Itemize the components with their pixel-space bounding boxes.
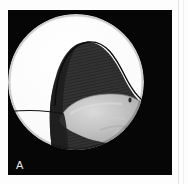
photo-plate: A [8,10,172,175]
figure-panel-root: A [0,0,188,184]
page-edge-line [178,0,179,184]
specular-dot [128,97,131,102]
panel-label: A [16,160,24,171]
endoscopic-image [8,10,172,175]
page-edge-line-secondary [183,0,184,184]
